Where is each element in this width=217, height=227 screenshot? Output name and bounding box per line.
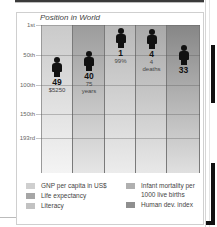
y-tick-193rd: 193rd [5,135,35,141]
column-life-expectancy [73,25,105,173]
person-icon [178,45,190,65]
right-rail-line [205,0,206,227]
chart-title: Position in World [40,13,100,22]
left-edge-line [0,217,16,218]
y-tick-50th: 50th [5,52,35,58]
legend-swatch-life [26,193,35,199]
rank-life-expectancy: 40 [73,72,105,81]
plot-area: 49 $5250 40 75 years 1 99% 4 4 deaths 33 [41,25,200,173]
y-tick-150th: 150th [5,111,35,117]
person-icon [51,57,63,77]
rank-gnp: 49 [41,78,73,87]
marker-literacy: 1 99% [105,28,136,65]
side-black-bar-foot [206,221,215,225]
value-literacy: 99% [105,58,136,65]
y-tick-100th: 100th [5,82,35,88]
top-frame-shadow [15,2,204,3]
marker-infant-mortality: 4 4 deaths [136,29,167,73]
unit-life-expectancy: years [73,88,105,95]
marker-gnp: 49 $5250 [41,57,73,94]
gridline-150th [36,114,200,115]
gridline-193rd [36,138,200,139]
gridline-1st [36,25,200,26]
side-black-bar-bottom [211,163,215,225]
y-tick-1st: 1st [5,22,35,28]
marker-hdi: 33 [167,45,200,75]
value-gnp: $5250 [41,87,73,94]
legend-swatch-hdi [126,202,135,208]
right-rail-line-2 [209,0,210,227]
person-icon [115,28,127,48]
side-black-bar-top [211,45,215,103]
value-life-expectancy: 75 [73,81,105,88]
rank-infant-mortality: 4 [136,50,167,59]
rank-literacy: 1 [105,49,136,58]
person-icon [83,51,95,71]
legend-swatch-gnp [26,183,35,189]
rank-hdi: 33 [167,66,200,75]
legend-swatch-infant [126,183,135,189]
marker-life-expectancy: 40 75 years [73,51,105,95]
unit-infant-mortality: deaths [136,66,167,73]
value-infant-mortality: 4 [136,59,167,66]
column-gnp [41,25,73,173]
legend-swatch-literacy [26,203,35,209]
person-icon [146,29,158,49]
